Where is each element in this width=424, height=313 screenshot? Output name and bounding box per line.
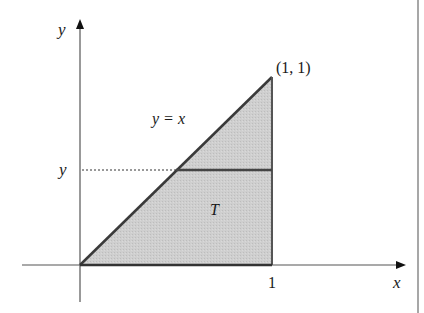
vertex-label: (1, 1) — [276, 59, 311, 77]
x-axis-label: x — [392, 273, 401, 292]
x-axis-arrow-icon — [396, 261, 406, 269]
curve-label: y = x — [150, 110, 185, 128]
y-axis-arrow-icon — [76, 19, 84, 29]
y-level-label: y — [57, 160, 67, 179]
diagram-canvas: y (1, 1) y = x y T 1 x — [0, 0, 424, 313]
region-label: T — [210, 201, 220, 218]
x-tick-label: 1 — [268, 274, 276, 291]
y-axis-label: y — [56, 20, 66, 39]
